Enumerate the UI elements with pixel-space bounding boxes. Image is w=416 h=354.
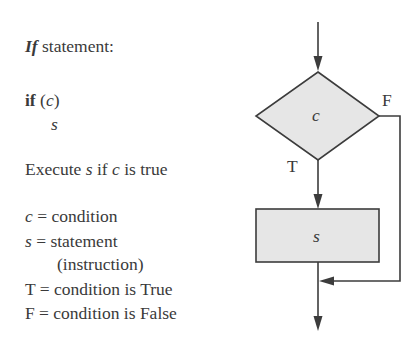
exit-arrow xyxy=(314,262,323,331)
true-label: T xyxy=(287,158,298,176)
true-branch-arrow xyxy=(314,160,323,209)
false-label: F xyxy=(382,92,392,110)
flowchart xyxy=(0,0,416,354)
entry-arrow xyxy=(314,22,323,71)
process-label: s xyxy=(313,228,320,246)
decision-label: c xyxy=(312,107,320,125)
